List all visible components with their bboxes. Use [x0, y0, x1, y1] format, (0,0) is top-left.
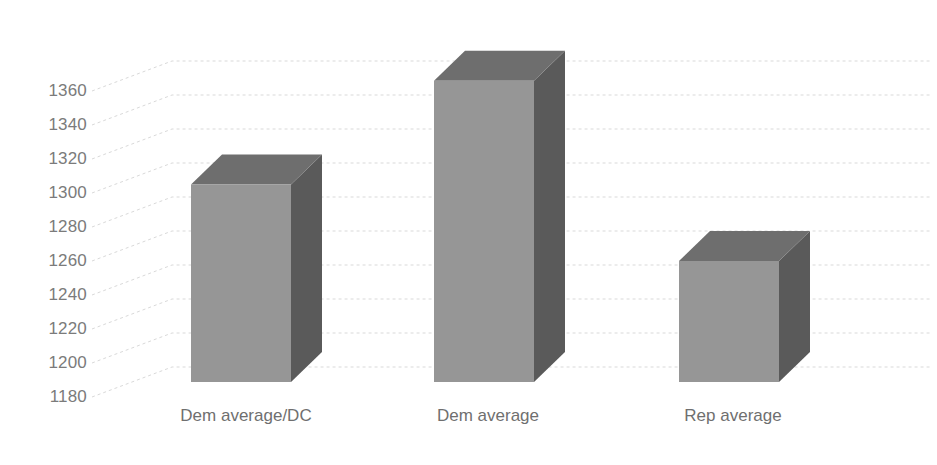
bar-3[interactable] [679, 231, 810, 382]
y-tick-label: 1340 [25, 115, 87, 135]
bar-1[interactable] [191, 155, 322, 383]
bar-2[interactable] [434, 51, 565, 382]
y-tick-label: 1240 [25, 285, 87, 305]
y-tick-label: 1260 [25, 251, 87, 271]
y-tick-label: 1320 [25, 149, 87, 169]
y-tick-label: 1220 [25, 319, 87, 339]
y-tick-label: 1280 [25, 217, 87, 237]
chart-plot-area [0, 0, 937, 465]
bar-side-face [534, 51, 565, 382]
bar-side-face [291, 155, 322, 383]
x-category-label: Dem average/DC [136, 406, 356, 426]
bar-front-face [679, 261, 779, 382]
bar-front-face [434, 81, 534, 382]
y-tick-label: 1360 [25, 81, 87, 101]
y-tick-label: 1180 [25, 387, 87, 407]
y-tick-label: 1300 [25, 183, 87, 203]
bar-front-face [191, 185, 291, 383]
x-category-label: Dem average [378, 406, 598, 426]
x-category-label: Rep average [623, 406, 843, 426]
chart-container: 1180120012201240126012801300132013401360… [0, 0, 937, 465]
y-tick-label: 1200 [25, 353, 87, 373]
